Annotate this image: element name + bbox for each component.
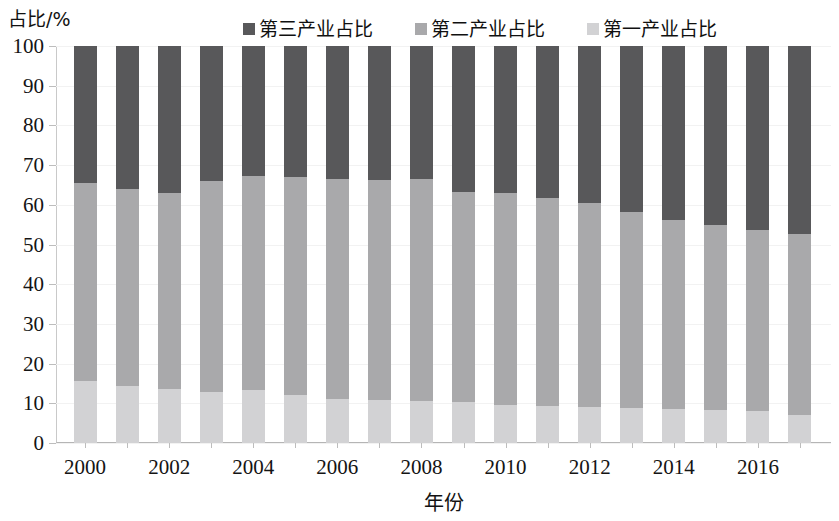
bar-segment-primary — [242, 390, 265, 443]
bar-segment-secondary — [284, 177, 307, 395]
bar-segment-tertiary — [536, 46, 559, 198]
y-axis-tick — [49, 205, 56, 206]
x-axis-tick-label: 2004 — [232, 457, 274, 478]
bar-segment-primary — [578, 407, 601, 443]
bar-segment-primary — [158, 389, 181, 443]
bar-column[interactable] — [242, 46, 265, 443]
x-axis-tick — [674, 443, 675, 448]
y-axis-title: 占比/% — [8, 4, 70, 31]
bar-segment-primary — [284, 395, 307, 443]
x-axis-tick — [758, 443, 759, 448]
x-axis-tick-label: 2014 — [653, 457, 695, 478]
y-axis-tick-label: 30 — [23, 313, 44, 334]
y-axis-tick-label: 50 — [23, 234, 44, 255]
plot-area: 0102030405060708090100 20002002200420062… — [56, 46, 831, 443]
stacked-bar-chart: 占比/% 第三产业占比第二产业占比第一产业占比 0102030405060708… — [0, 0, 839, 521]
x-axis-tick — [127, 443, 128, 448]
x-axis-tick — [211, 443, 212, 448]
x-axis-tick — [506, 443, 507, 448]
x-axis-tick-label: 2010 — [485, 457, 527, 478]
bar-segment-tertiary — [494, 46, 517, 193]
bar-segment-secondary — [452, 192, 475, 402]
legend-item[interactable]: 第三产业占比 — [243, 20, 373, 39]
bar-column[interactable] — [452, 46, 475, 443]
bar-segment-secondary — [200, 181, 223, 392]
bar-segment-tertiary — [620, 46, 643, 212]
bar-segment-primary — [620, 408, 643, 443]
bar-column[interactable] — [578, 46, 601, 443]
y-axis-tick — [49, 284, 56, 285]
bar-segment-primary — [200, 392, 223, 443]
legend-item-label: 第二产业占比 — [431, 20, 545, 39]
x-axis-tick — [337, 443, 338, 448]
bar-column[interactable] — [200, 46, 223, 443]
bar-segment-secondary — [788, 234, 811, 415]
bar-segment-tertiary — [326, 46, 349, 179]
bar-column[interactable] — [158, 46, 181, 443]
x-axis-tick — [590, 443, 591, 448]
bar-segment-primary — [326, 399, 349, 443]
bar-column[interactable] — [746, 46, 769, 443]
bar-column[interactable] — [74, 46, 97, 443]
x-axis-tick — [716, 443, 717, 448]
bar-segment-tertiary — [746, 46, 769, 230]
x-axis-tick-label: 2012 — [569, 457, 611, 478]
x-axis-tick — [464, 443, 465, 448]
y-gridline — [56, 443, 831, 444]
y-axis-tick — [49, 443, 56, 444]
bar-segment-secondary — [578, 203, 601, 407]
bar-segment-secondary — [494, 193, 517, 405]
bar-segment-primary — [704, 410, 727, 443]
bar-segment-secondary — [620, 212, 643, 408]
x-axis-tick — [253, 443, 254, 448]
legend-item[interactable]: 第一产业占比 — [587, 20, 717, 39]
y-axis-tick — [49, 324, 56, 325]
bar-segment-tertiary — [788, 46, 811, 234]
legend-item-label: 第一产业占比 — [603, 20, 717, 39]
bar-column[interactable] — [410, 46, 433, 443]
y-axis-tick-label: 10 — [23, 393, 44, 414]
x-axis-tick-label: 2006 — [316, 457, 358, 478]
bar-segment-secondary — [662, 220, 685, 409]
bar-column[interactable] — [704, 46, 727, 443]
bar-segment-tertiary — [158, 46, 181, 193]
bar-segment-tertiary — [116, 46, 139, 189]
x-axis-tick — [295, 443, 296, 448]
bar-segment-secondary — [74, 183, 97, 381]
bar-column[interactable] — [788, 46, 811, 443]
x-axis-tick-label: 2002 — [148, 457, 190, 478]
bar-segment-primary — [410, 401, 433, 443]
x-axis-tick — [379, 443, 380, 448]
bar-segment-tertiary — [74, 46, 97, 183]
y-axis-tick — [49, 245, 56, 246]
legend-swatch-icon — [587, 23, 599, 35]
y-axis-tick — [49, 46, 56, 47]
bar-segment-tertiary — [578, 46, 601, 203]
bar-column[interactable] — [284, 46, 307, 443]
bar-segment-secondary — [158, 193, 181, 389]
bar-segment-secondary — [326, 179, 349, 399]
bar-segment-tertiary — [452, 46, 475, 192]
y-axis-tick-label: 40 — [23, 274, 44, 295]
y-axis-tick-label: 20 — [23, 353, 44, 374]
bar-segment-tertiary — [284, 46, 307, 177]
x-axis-tick — [85, 443, 86, 448]
legend-item[interactable]: 第二产业占比 — [415, 20, 545, 39]
x-axis-tick — [421, 443, 422, 448]
bar-column[interactable] — [662, 46, 685, 443]
y-axis-tick-label: 90 — [23, 75, 44, 96]
bar-segment-tertiary — [704, 46, 727, 225]
bar-column[interactable] — [494, 46, 517, 443]
bar-column[interactable] — [536, 46, 559, 443]
bar-column[interactable] — [620, 46, 643, 443]
bar-segment-primary — [662, 409, 685, 443]
y-axis-tick-label: 80 — [23, 115, 44, 136]
y-axis-tick-label: 60 — [23, 194, 44, 215]
bar-column[interactable] — [368, 46, 391, 443]
bar-segment-secondary — [116, 189, 139, 386]
chart-legend: 第三产业占比第二产业占比第一产业占比 — [243, 16, 717, 42]
bar-segment-tertiary — [662, 46, 685, 220]
bar-column[interactable] — [326, 46, 349, 443]
bar-column[interactable] — [116, 46, 139, 443]
y-axis-tick-label: 100 — [13, 36, 45, 57]
